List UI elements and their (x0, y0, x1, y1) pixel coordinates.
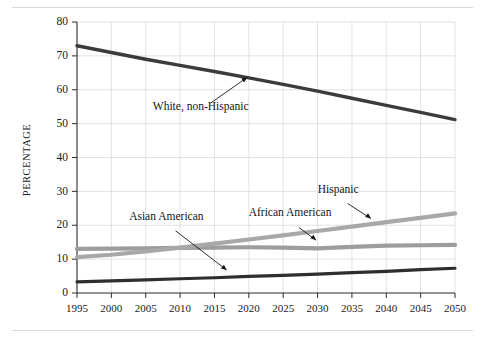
y-tick-label: 0 (62, 286, 68, 298)
x-tick-label: 2035 (341, 302, 364, 314)
x-axis-ticks: 1995200020052010201520202025203020352040… (66, 293, 467, 314)
x-tick-label: 2005 (135, 302, 158, 314)
x-tick-label: 2045 (410, 302, 433, 314)
series-line-african-american (77, 245, 455, 249)
y-tick-label: 70 (57, 49, 69, 61)
y-tick-label: 60 (57, 83, 69, 95)
series-leader-asian-american (176, 231, 227, 270)
y-tick-label: 30 (57, 185, 69, 197)
x-tick-label: 2020 (238, 302, 261, 314)
y-tick-label: 50 (57, 117, 69, 129)
chart-figure: 01020304050607080 1995200020052010201520… (0, 0, 485, 338)
x-tick-label: 2015 (203, 302, 226, 314)
series-label-african-american: African American (249, 206, 332, 218)
series-line-asian-american (77, 268, 455, 282)
y-tick-label: 20 (57, 218, 69, 230)
series-arrowhead-asian-american (221, 265, 227, 270)
y-axis-title: PERCENTAGE (21, 124, 32, 196)
y-axis-ticks: 01020304050607080 (57, 15, 78, 298)
y-tick-label: 40 (57, 151, 69, 163)
y-tick-label: 80 (57, 15, 69, 27)
series-label-asian-american: Asian American (129, 210, 204, 222)
series-lines (77, 46, 455, 282)
x-tick-label: 2050 (444, 302, 467, 314)
series-label-white-non-hispanic: White, non-Hispanic (153, 100, 249, 113)
x-tick-label: 2040 (375, 302, 398, 314)
y-tick-label: 10 (57, 252, 69, 264)
series-label-hispanic: Hispanic (318, 183, 359, 196)
x-tick-label: 2030 (307, 302, 330, 314)
x-tick-label: 1995 (66, 302, 89, 314)
series-arrowhead-african-american (310, 235, 316, 240)
series-arrowhead-hispanic (365, 213, 371, 218)
line-chart-plot: 01020304050607080 1995200020052010201520… (0, 0, 485, 338)
x-tick-label: 2025 (272, 302, 295, 314)
x-tick-label: 2000 (100, 302, 123, 314)
x-tick-label: 2010 (169, 302, 192, 314)
series-line-white-non-hispanic (77, 46, 455, 120)
